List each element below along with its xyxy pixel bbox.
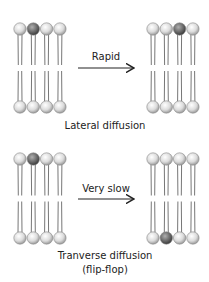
lipid-head: [27, 232, 39, 244]
lipid-head: [40, 153, 52, 165]
flip-flop-caption: (flip-flop): [40, 264, 170, 276]
lipid-head: [147, 101, 159, 113]
lipid-head: [160, 232, 172, 244]
lipid-head: [14, 153, 26, 165]
lipid-head: [147, 23, 159, 35]
lipid-head: [27, 23, 39, 35]
lipid-head: [14, 101, 26, 113]
lipid-head: [187, 153, 199, 165]
lipid-head: [54, 153, 66, 165]
lipid-head: [173, 23, 185, 35]
lipid-head: [147, 232, 159, 244]
lipid-diffusion-diagram: [0, 0, 209, 282]
lipid-head: [40, 23, 52, 35]
rapid-label: Rapid: [78, 51, 134, 63]
lipid-head: [187, 23, 199, 35]
lipid-head: [160, 101, 172, 113]
membrane-transverse-before: [14, 153, 66, 244]
lipid-head: [27, 101, 39, 113]
lipid-head: [40, 101, 52, 113]
very-slow-label: Very slow: [74, 183, 138, 195]
lipid-head: [54, 23, 66, 35]
lateral-diffusion-caption: Lateral diffusion: [50, 120, 160, 132]
membrane-lateral-before: [14, 23, 66, 113]
lipid-head: [173, 232, 185, 244]
lipid-head: [173, 153, 185, 165]
lipid-head: [14, 232, 26, 244]
lipid-head: [14, 23, 26, 35]
lipid-head: [160, 23, 172, 35]
lipid-head: [40, 232, 52, 244]
transverse-diffusion-caption: Tranverse diffusion: [40, 250, 170, 262]
lipid-head: [54, 232, 66, 244]
lipid-head: [187, 232, 199, 244]
lipid-head: [187, 101, 199, 113]
lipid-head: [173, 101, 185, 113]
membrane-transverse-after: [147, 153, 199, 244]
lipid-head: [160, 153, 172, 165]
lipid-head: [27, 153, 39, 165]
lipid-head: [54, 101, 66, 113]
lipid-head: [147, 153, 159, 165]
membrane-lateral-after: [147, 23, 199, 113]
